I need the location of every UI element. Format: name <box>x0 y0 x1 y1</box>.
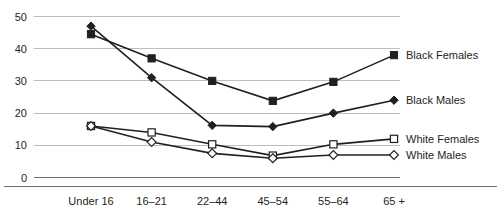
x-axis-tick-label: 55–64 <box>318 195 349 207</box>
y-axis-tick-label: 50 <box>15 11 27 23</box>
marker-filled-square <box>269 97 276 104</box>
x-axis-tick-label: 22–44 <box>197 195 228 207</box>
x-axis-tick-label: 16–21 <box>136 195 167 207</box>
marker-open-square <box>330 141 337 148</box>
legend-entry: White Females <box>406 133 480 145</box>
x-axis-tick-label: Under 16 <box>68 195 113 207</box>
gridlines-group: 01020304050 <box>15 11 400 184</box>
series-black-females <box>87 31 397 105</box>
marker-open-diamond <box>208 149 217 158</box>
legend-label: White Males <box>406 149 467 161</box>
marker-filled-diamond <box>269 122 277 130</box>
marker-filled-square <box>87 31 94 38</box>
marker-filled-diamond <box>329 109 337 117</box>
series-line <box>91 34 394 101</box>
marker-filled-square <box>209 77 216 84</box>
marker-filled-square <box>148 55 155 62</box>
y-axis-tick-label: 20 <box>15 107 27 119</box>
marker-filled-square <box>390 52 397 59</box>
line-chart: 01020304050Under 1616–2122–4445–5455–646… <box>0 0 501 213</box>
legend-label: Black Males <box>406 94 466 106</box>
y-axis-tick-label: 40 <box>15 43 27 55</box>
marker-open-diamond <box>390 151 399 160</box>
y-axis-tick-label: 0 <box>21 172 27 184</box>
y-axis-tick-label: 30 <box>15 75 27 87</box>
x-axis-tick-label: 45–54 <box>258 195 289 207</box>
marker-filled-square <box>330 78 337 85</box>
legend-entry: Black Males <box>406 94 466 106</box>
legend-label: Black Females <box>406 49 479 61</box>
marker-filled-diamond <box>390 96 398 104</box>
y-axis-tick-label: 10 <box>15 139 27 151</box>
marker-open-square <box>390 135 397 142</box>
series-line <box>91 126 394 156</box>
x-axis-group: Under 1616–2122–4445–5455–6465 + <box>4 187 497 208</box>
legend-entry: White Males <box>406 149 467 161</box>
marker-open-square <box>209 141 216 148</box>
series-line <box>91 26 394 126</box>
series-white-females <box>87 122 397 159</box>
marker-open-square <box>148 129 155 136</box>
x-axis-tick-label: 65 + <box>383 195 405 207</box>
marker-open-diamond <box>329 151 338 160</box>
chart-canvas: 01020304050Under 1616–2122–4445–5455–646… <box>0 0 501 213</box>
legend-entry: Black Females <box>406 49 479 61</box>
series-black-males <box>87 22 398 131</box>
legend-label: White Females <box>406 133 480 145</box>
